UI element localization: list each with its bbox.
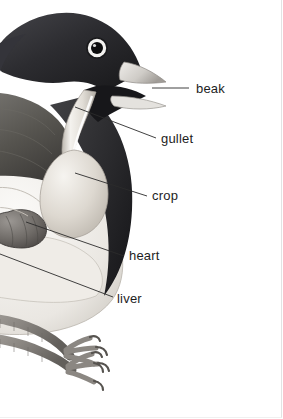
- label-heart: heart: [129, 248, 160, 263]
- eye-highlight-part: [93, 44, 96, 47]
- heart-part: [0, 210, 46, 248]
- label-gullet: gullet: [161, 131, 193, 146]
- anatomy-figure: beak gullet crop heart liver: [0, 0, 283, 419]
- label-beak: beak: [196, 81, 225, 96]
- eye-pupil-part: [91, 42, 103, 54]
- bird-illustration: [0, 0, 283, 419]
- label-crop: crop: [152, 188, 178, 203]
- upper-beak-part: [119, 62, 166, 83]
- label-liver: liver: [117, 291, 142, 306]
